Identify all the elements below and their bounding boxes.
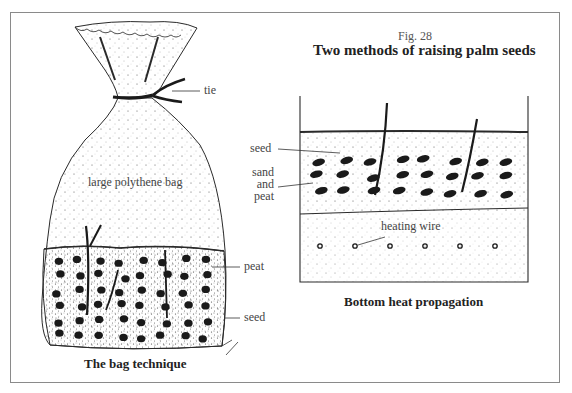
seed-icon xyxy=(74,332,82,339)
seed-icon xyxy=(56,302,64,309)
seed-icon xyxy=(204,318,212,325)
seed-icon xyxy=(203,271,211,278)
seed-icon xyxy=(182,255,190,262)
seed-icon xyxy=(73,256,81,263)
seed-icon xyxy=(78,303,86,310)
seed-icon xyxy=(52,290,60,297)
tie-label: tie xyxy=(204,83,216,98)
seed-icon xyxy=(180,273,188,280)
sand-and-peat-label: sand and peat xyxy=(248,166,274,202)
seed-icon xyxy=(120,315,128,322)
seed-icon xyxy=(76,272,84,279)
seed-icon xyxy=(202,286,210,293)
seed-icon xyxy=(140,257,148,264)
seed-icon xyxy=(199,335,207,342)
label-line: peat xyxy=(248,190,274,202)
figure-title: Two methods of raising palm seeds xyxy=(313,42,536,59)
seed-icon xyxy=(136,272,144,279)
seed-icon xyxy=(97,286,105,293)
seed-icon xyxy=(184,301,192,308)
seed-icon xyxy=(55,258,63,265)
seed-icon xyxy=(137,319,145,326)
seed-icon xyxy=(156,332,164,339)
seed-icon xyxy=(158,259,166,266)
seed-icon xyxy=(181,332,189,339)
seed-icon xyxy=(161,303,169,310)
seed-icon xyxy=(114,260,122,267)
bottom-heat-caption: Bottom heat propagation xyxy=(344,294,483,310)
seed-icon xyxy=(75,317,83,324)
seed-icon xyxy=(96,257,104,264)
seed-icon xyxy=(115,289,123,296)
seed-icon xyxy=(54,319,62,326)
seed-icon xyxy=(56,270,64,277)
bag-technique-caption: The bag technique xyxy=(84,356,187,372)
seed-icon xyxy=(201,302,209,309)
seed-icon xyxy=(121,275,129,282)
seed-icon xyxy=(163,271,171,278)
bag-label: large polythene bag xyxy=(88,175,182,190)
seed-icon xyxy=(202,256,210,263)
seed-icon xyxy=(94,301,102,308)
seed-icon xyxy=(94,270,102,277)
seed-icon xyxy=(137,335,145,342)
seed-icon xyxy=(138,287,146,294)
propagation-tray xyxy=(278,96,528,282)
seed-icon xyxy=(119,334,127,341)
seed-icon xyxy=(55,330,63,337)
bag-seed-label: seed xyxy=(244,310,265,325)
seed-icon xyxy=(184,320,192,327)
seed-icon xyxy=(163,320,171,327)
peat-label: peat xyxy=(244,259,264,274)
seed-icon xyxy=(95,332,103,339)
tray-seed-label: seed xyxy=(250,141,271,156)
seed-icon xyxy=(135,302,143,309)
seed-icon xyxy=(75,286,83,293)
seed-icon xyxy=(179,290,187,297)
seed-icon xyxy=(156,290,164,297)
heating-wire-label: heating wire xyxy=(381,219,441,234)
seed-icon xyxy=(117,300,125,307)
seed-icon xyxy=(95,316,103,323)
